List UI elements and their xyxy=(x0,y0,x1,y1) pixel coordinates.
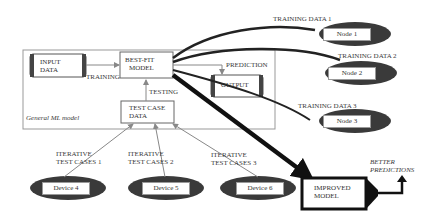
test-case-line1: TEST CASE xyxy=(129,104,165,112)
node-3: Node 3 xyxy=(323,115,371,128)
training-label: TRAINING xyxy=(86,73,120,81)
best-fit-line2: MODEL xyxy=(125,64,154,72)
best-fit-model-label: BEST-FIT MODEL xyxy=(125,56,154,72)
node-1: Node 1 xyxy=(323,28,371,41)
input-data-label: INPUT DATA xyxy=(40,58,61,74)
device-5: Device 5 xyxy=(142,182,190,195)
iterative-1-line2: TEST CASES 1 xyxy=(56,158,101,166)
general-ml-model-label: General ML model xyxy=(26,114,79,122)
test-case-data-label: TEST CASE DATA xyxy=(129,104,165,120)
device-6: Device 6 xyxy=(236,182,284,195)
output-label: OUTPUT xyxy=(221,81,249,89)
iterative-3-line2: TEST CASES 3 xyxy=(211,159,256,167)
training-data-2-label: TRAINING DATA 2 xyxy=(338,52,397,60)
training-data-1-label: TRAINING DATA 1 xyxy=(273,15,332,23)
improved-model-label: IMPROVED MODEL xyxy=(314,184,351,200)
improved-line2: MODEL xyxy=(314,192,351,200)
better-line2: PREDICTIONS xyxy=(370,166,414,174)
iterative-2-line2: TEST CASES 2 xyxy=(128,158,173,166)
training-data-3-label: TRAINING DATA 3 xyxy=(298,102,357,110)
input-data-line2: DATA xyxy=(40,66,61,74)
iterative-1-line1: ITERATIVE xyxy=(56,150,101,158)
test-case-line2: DATA xyxy=(129,112,165,120)
improved-line1: IMPROVED xyxy=(314,184,351,192)
best-fit-line1: BEST-FIT xyxy=(125,56,154,64)
iterative-test-cases-3-label: ITERATIVE TEST CASES 3 xyxy=(211,151,256,167)
prediction-label: PREDICTION xyxy=(226,61,268,69)
device-4: Device 4 xyxy=(42,182,90,195)
better-predictions-label: BETTER PREDICTIONS xyxy=(370,158,414,174)
node-2: Node 2 xyxy=(328,67,376,80)
iterative-test-cases-1-label: ITERATIVE TEST CASES 1 xyxy=(56,150,101,166)
iterative-2-line1: ITERATIVE xyxy=(128,150,173,158)
better-line1: BETTER xyxy=(370,158,414,166)
iterative-3-line1: ITERATIVE xyxy=(211,151,256,159)
testing-label: TESTING xyxy=(149,88,178,96)
input-data-line1: INPUT xyxy=(40,58,61,66)
iterative-test-cases-2-label: ITERATIVE TEST CASES 2 xyxy=(128,150,173,166)
